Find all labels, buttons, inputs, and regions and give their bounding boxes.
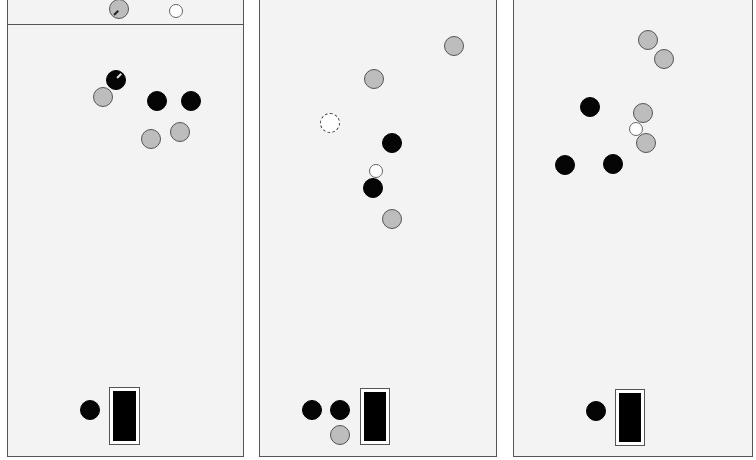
ball-marker (369, 164, 383, 178)
black-player-marker (106, 70, 126, 90)
black-player-marker (382, 133, 402, 153)
black-player-marker (555, 155, 575, 175)
black-player-marker (330, 400, 350, 420)
gray-player-marker (109, 0, 129, 19)
gray-player-marker (93, 87, 113, 107)
gray-player-marker (444, 36, 464, 56)
black-player-marker (80, 400, 100, 420)
gray-player-marker (330, 425, 350, 445)
goal-fill (364, 392, 386, 441)
black-player-marker (363, 178, 383, 198)
goal-box (109, 387, 140, 445)
goal-box (360, 388, 390, 445)
goal-box (615, 389, 645, 446)
court-divider-line (7, 24, 244, 25)
black-player-marker (580, 97, 600, 117)
black-player-marker (603, 154, 623, 174)
gray-player-marker (170, 122, 190, 142)
ghost-position-marker (320, 113, 340, 133)
gray-player-marker (364, 69, 384, 89)
black-player-marker (586, 401, 606, 421)
black-player-marker (302, 400, 322, 420)
goal-fill (619, 393, 641, 442)
goal-fill (113, 391, 136, 441)
gray-player-marker (638, 30, 658, 50)
gray-player-marker (654, 49, 674, 69)
gray-player-marker (382, 209, 402, 229)
black-player-marker (147, 91, 167, 111)
ball-marker (169, 4, 183, 18)
gray-player-marker (633, 103, 653, 123)
gray-player-marker (141, 129, 161, 149)
black-player-marker (181, 91, 201, 111)
gray-player-marker (636, 133, 656, 153)
